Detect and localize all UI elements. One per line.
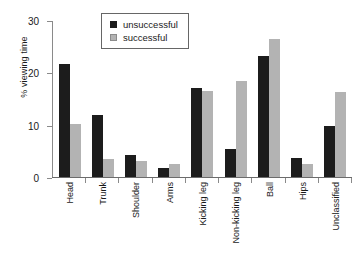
bar-successful xyxy=(236,81,247,177)
bar-successful xyxy=(70,124,81,177)
legend-item-unsuccessful: unsuccessful xyxy=(110,18,178,31)
chart-legend: unsuccessful successful xyxy=(101,13,189,49)
bar-unsuccessful xyxy=(324,126,335,177)
bar-successful xyxy=(202,91,213,177)
bar-successful xyxy=(136,161,147,177)
plot-area: 0102030 xyxy=(52,21,352,178)
bar-group xyxy=(286,21,319,177)
bar-groups xyxy=(53,21,352,177)
legend-swatch-icon-successful xyxy=(110,34,117,41)
y-axis-tick: 10 xyxy=(47,126,52,127)
y-axis-tick-label: 20 xyxy=(28,68,39,79)
bar-unsuccessful xyxy=(258,56,269,177)
x-label-cell: Trunk xyxy=(86,182,119,268)
x-label-cell: Hips xyxy=(286,182,319,268)
x-axis-tick-label: Non-kicking leg xyxy=(231,182,241,244)
x-label-cell: Shoulder xyxy=(120,182,153,268)
x-axis-tick-label: Trunk xyxy=(98,182,108,205)
bar-group xyxy=(319,21,352,177)
bar-successful xyxy=(269,39,280,177)
x-label-cell: Arms xyxy=(153,182,186,268)
bar-successful xyxy=(302,164,313,177)
x-label-cell: Head xyxy=(53,182,86,268)
bar-unsuccessful xyxy=(225,149,236,177)
y-axis-tick: 0 xyxy=(47,178,52,179)
bar-chart: % viewing time 0102030 HeadTrunkShoulder… xyxy=(0,0,360,270)
x-axis-tick-label: Arms xyxy=(165,182,175,203)
legend-label-successful: successful xyxy=(123,32,167,43)
bar-unsuccessful xyxy=(191,88,202,177)
bar-group xyxy=(186,21,219,177)
x-axis-tick-label: Shoulder xyxy=(131,182,141,218)
legend-item-successful: successful xyxy=(110,31,178,44)
x-axis-tick-label: Unclassified xyxy=(331,182,341,231)
bar-unsuccessful xyxy=(291,158,302,177)
y-axis-tick: 30 xyxy=(47,21,52,22)
bar-unsuccessful xyxy=(92,115,103,177)
x-axis-labels: HeadTrunkShoulderArmsKicking legNon-kick… xyxy=(53,182,353,268)
x-axis-tick-label: Head xyxy=(65,182,75,204)
bar-unsuccessful xyxy=(59,64,70,177)
bar-group xyxy=(219,21,252,177)
y-axis-tick-label: 10 xyxy=(28,120,39,131)
bar-group xyxy=(252,21,285,177)
bar-unsuccessful xyxy=(158,168,169,177)
x-label-cell: Kicking leg xyxy=(186,182,219,268)
legend-label-unsuccessful: unsuccessful xyxy=(123,19,178,30)
x-axis-tick-label: Kicking leg xyxy=(198,182,208,226)
y-axis-tick-label: 0 xyxy=(33,173,39,184)
bar-successful xyxy=(335,92,346,177)
y-axis-tick: 20 xyxy=(47,73,52,74)
x-label-cell: Ball xyxy=(253,182,286,268)
x-label-cell: Unclassified xyxy=(320,182,353,268)
x-label-cell: Non-kicking leg xyxy=(220,182,253,268)
legend-swatch-icon-unsuccessful xyxy=(110,21,117,28)
bar-unsuccessful xyxy=(125,155,136,178)
bar-successful xyxy=(169,164,180,177)
bar-group xyxy=(53,21,86,177)
bar-successful xyxy=(103,159,114,177)
x-axis-tick-label: Hips xyxy=(298,182,308,200)
x-axis-tick-label: Ball xyxy=(265,182,275,197)
y-axis-tick-label: 30 xyxy=(28,16,39,27)
